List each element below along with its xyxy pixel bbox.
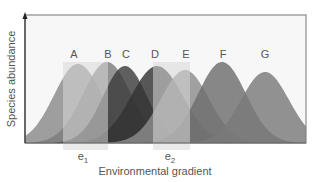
species-abundance-diagram: ABCDEFG e1e2 Species abundance Environme… <box>0 0 315 182</box>
species-label-a: A <box>70 48 78 60</box>
environment-box-e2 <box>153 62 190 150</box>
y-axis-label: Species abundance <box>5 31 17 128</box>
species-label-e: E <box>182 48 189 60</box>
environment-label-e1: e1 <box>78 150 89 165</box>
species-label-c: C <box>122 48 130 60</box>
species-label-f: F <box>220 48 227 60</box>
environment-label-e2: e2 <box>165 150 176 165</box>
species-label-d: D <box>151 48 159 60</box>
x-axis-label: Environmental gradient <box>98 165 211 177</box>
environment-box-e1 <box>63 62 108 150</box>
species-label-b: B <box>104 48 111 60</box>
environment-labels: e1e2 <box>78 150 176 165</box>
species-label-g: G <box>261 48 270 60</box>
